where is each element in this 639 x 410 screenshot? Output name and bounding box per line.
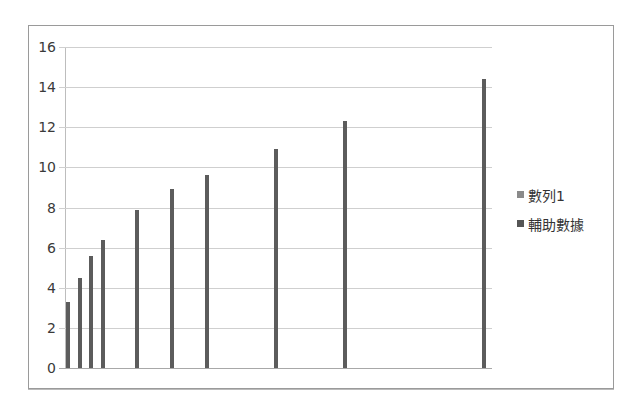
data-bar [66,302,70,368]
data-bar [274,149,278,368]
data-bar [482,79,486,368]
gridline [59,368,492,369]
data-bar [343,121,347,368]
data-bar [135,210,139,368]
y-tick-label: 0 [16,361,56,375]
y-tick-label: 8 [16,201,56,215]
gridline [59,127,492,128]
legend-item-helper-data: 輔助數據 [517,209,584,238]
legend-item-series1: 數列1 [517,180,584,209]
data-bar [89,256,93,368]
plot-area: 0246810121416 [65,47,492,368]
gridline [59,47,492,48]
y-tick-label: 12 [16,120,56,134]
legend-label: 輔助數據 [528,214,584,234]
data-bar [78,278,82,368]
y-tick-label: 6 [16,241,56,255]
legend: 數列1 輔助數據 [517,180,584,238]
data-bar [170,189,174,368]
legend-swatch-icon [517,220,524,227]
legend-label: 數列1 [528,185,565,205]
y-tick-label: 2 [16,321,56,335]
data-bar [205,175,209,368]
data-bar [101,240,105,368]
y-tick-label: 10 [16,160,56,174]
gridline [59,87,492,88]
legend-swatch-icon [517,191,524,198]
y-tick-label: 14 [16,80,56,94]
y-tick-label: 16 [16,40,56,54]
y-tick-label: 4 [16,281,56,295]
